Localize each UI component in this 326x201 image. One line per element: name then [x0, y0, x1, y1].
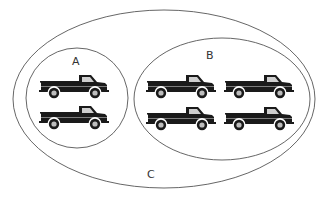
pickup-truck-icon: [39, 73, 109, 99]
set-outlines: [0, 0, 326, 201]
pickup-truck-icon: [146, 73, 216, 99]
set-b-label: B: [206, 50, 214, 61]
set-a-label: A: [72, 56, 80, 67]
set-c-label: C: [147, 169, 155, 180]
pickup-truck-icon: [39, 104, 109, 130]
pickup-truck-icon: [224, 73, 294, 99]
pickup-truck-icon: [146, 105, 216, 131]
set-c-outline: [13, 10, 315, 188]
venn-diagram: A B C: [0, 0, 326, 201]
pickup-truck-icon: [224, 105, 294, 131]
set-b-outline: [134, 38, 310, 160]
